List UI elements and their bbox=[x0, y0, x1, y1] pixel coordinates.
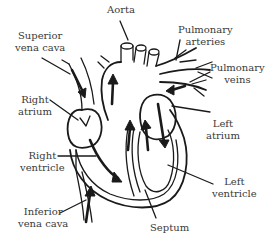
label-left-ventricle: Left ventricle bbox=[212, 176, 257, 200]
pulmonary-vessels bbox=[156, 48, 212, 96]
label-pulmonary-veins: Pulmonary veins bbox=[210, 62, 265, 86]
label-aorta: Aorta bbox=[107, 4, 135, 16]
right-atrium-shape bbox=[68, 109, 102, 148]
label-inferior-vena-cava: Inferior vena cava bbox=[18, 206, 68, 230]
label-right-atrium: Right atrium bbox=[18, 94, 52, 118]
label-superior-vena-cava: Superior vena cava bbox=[15, 30, 65, 54]
aorta-vessel bbox=[98, 43, 159, 120]
label-septum: Septum bbox=[150, 222, 189, 234]
label-pulmonary-arteries: Pulmonary arteries bbox=[178, 24, 233, 48]
leader-lines bbox=[42, 21, 213, 218]
heart-diagram: Aorta Superior vena cava Pulmonary arter… bbox=[0, 0, 274, 243]
label-left-atrium: Left atrium bbox=[206, 118, 240, 142]
label-right-ventricle: Right ventricle bbox=[20, 150, 65, 174]
